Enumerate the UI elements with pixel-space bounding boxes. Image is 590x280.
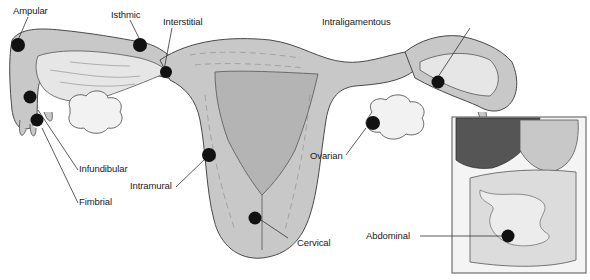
site-intramural <box>202 148 216 162</box>
anatomy-illustration <box>0 0 590 280</box>
site-fimbrial <box>31 114 44 127</box>
site-intraligamentous <box>432 76 445 89</box>
left-ovary <box>69 91 122 133</box>
label-isthmic: Isthmic <box>111 9 140 20</box>
site-cervical <box>249 212 262 225</box>
label-intramural: Intramural <box>130 180 172 191</box>
abdominal-inset <box>452 117 586 273</box>
site-interstitial <box>160 66 172 78</box>
label-abdominal: Abdominal <box>366 230 410 241</box>
site-ampular <box>11 38 25 52</box>
site-infundibular <box>24 91 37 104</box>
site-isthmic <box>133 38 147 52</box>
site-abdominal <box>502 230 515 243</box>
label-intraligamentous: Intraligamentous <box>322 16 391 27</box>
label-ampular: Ampular <box>13 5 48 16</box>
site-ovarian <box>366 116 380 130</box>
label-infundibular: Infundibular <box>79 163 127 174</box>
label-fimbrial: Fimbrial <box>79 196 112 207</box>
ectopic-pregnancy-diagram: Ampular Isthmic Interstitial Intraligame… <box>0 0 590 280</box>
label-cervical: Cervical <box>297 237 331 248</box>
uterus <box>160 39 415 259</box>
label-interstitial: Interstitial <box>163 16 202 27</box>
label-ovarian: Ovarian <box>310 150 343 161</box>
